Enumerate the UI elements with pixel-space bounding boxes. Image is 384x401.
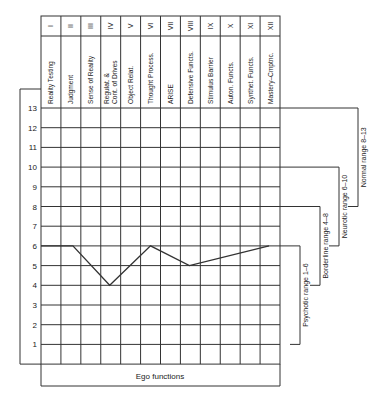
column-header: IXStimulus Barrier — [207, 22, 214, 104]
column-numeral: XII — [267, 22, 274, 31]
column-header: VIThought Process. — [147, 23, 155, 104]
x-axis-label: Ego functions — [136, 372, 184, 381]
column-name: Stimulus Barrier — [207, 56, 214, 104]
range-label: Normal range 8–13 — [360, 127, 368, 187]
y-tick-label: 12 — [28, 124, 37, 133]
column-numeral: II — [67, 24, 74, 28]
y-tick-label: 6 — [33, 242, 38, 251]
column-numeral: VI — [147, 23, 154, 30]
svg-text:Cont. of Drives: Cont. of Drives — [111, 60, 118, 104]
column-name: Judgment — [67, 75, 75, 104]
column-name: Auton. Functs. — [227, 61, 234, 104]
y-tick-label: 4 — [33, 281, 38, 290]
column-header: IIISense of Reality — [87, 23, 95, 104]
y-axis-ticks: 12345678910111213 — [28, 104, 37, 349]
column-name: Defensive Functs. — [187, 51, 194, 104]
y-tick-label: 5 — [33, 262, 38, 271]
column-numeral: I — [47, 25, 54, 27]
range-bracket — [280, 246, 300, 345]
y-tick-label: 8 — [33, 203, 38, 212]
column-name: ARISE — [167, 84, 174, 104]
grid — [41, 16, 280, 364]
column-name: Mastery–Cmptnc. — [267, 52, 275, 104]
y-tick-label: 3 — [33, 301, 38, 310]
column-name: Sense of Reality — [87, 55, 95, 104]
column-numeral: X — [227, 23, 234, 28]
column-header: IReality Testing — [47, 25, 55, 104]
column-header: XIIMastery–Cmptnc. — [267, 22, 275, 104]
range-label: Psychotic range 1–6 — [302, 263, 310, 327]
range-label: Borderline range 4–8 — [322, 213, 330, 278]
y-tick-label: 10 — [28, 163, 37, 172]
range-label: Neurotic range 6–10 — [341, 175, 349, 239]
column-header: XISynthet. Functs. — [247, 23, 255, 104]
column-header: IVRegulat. &Cont. of Drives — [103, 22, 118, 104]
column-numeral: IV — [107, 22, 114, 29]
y-tick-label: 7 — [33, 222, 38, 231]
y-tick-label: 2 — [33, 321, 38, 330]
column-numeral: IX — [207, 22, 214, 29]
column-numeral: XI — [247, 23, 254, 30]
y-tick-label: 11 — [29, 143, 38, 152]
column-header: XAuton. Functs. — [227, 23, 234, 104]
column-name: Synthet. Functs. — [247, 56, 255, 104]
column-name: Reality Testing — [47, 61, 55, 104]
y-tick-label: 1 — [33, 340, 38, 349]
column-numeral: VII — [167, 22, 174, 31]
column-header: VObject Relat. — [127, 23, 135, 104]
column-numeral: V — [127, 23, 134, 28]
column-numeral: VIII — [187, 21, 194, 32]
ego-functions-chart: IReality TestingIIJudgmentIIISense of Re… — [0, 0, 384, 401]
column-name: Object Relat. — [127, 66, 135, 104]
column-numeral: III — [87, 23, 94, 29]
column-name: Thought Process. — [147, 52, 155, 104]
y-tick-label: 13 — [28, 104, 37, 113]
column-header: VIIIDefensive Functs. — [187, 21, 194, 104]
y-tick-label: 9 — [33, 183, 38, 192]
column-header: VIIARISE — [167, 22, 174, 104]
